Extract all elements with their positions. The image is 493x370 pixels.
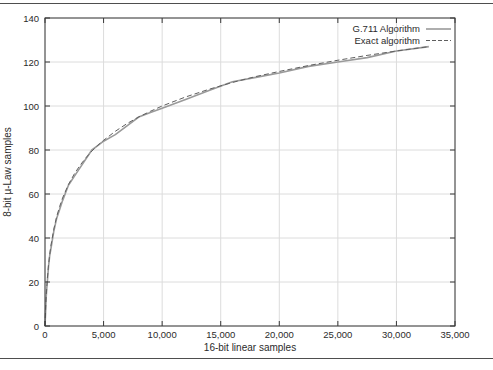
y-tick-label: 60 bbox=[28, 189, 39, 200]
y-axis-label: 8-bit µ-Law samples bbox=[2, 127, 13, 217]
x-tick-label: 5,000 bbox=[92, 329, 116, 340]
x-tick-label: 10,000 bbox=[148, 329, 177, 340]
y-tick-label: 20 bbox=[28, 277, 39, 288]
y-tick-label: 40 bbox=[28, 233, 39, 244]
plot-border bbox=[45, 18, 455, 326]
x-axis-label: 16-bit linear samples bbox=[204, 342, 296, 353]
y-tick-label: 120 bbox=[23, 57, 39, 68]
y-tick-label: 100 bbox=[23, 101, 39, 112]
y-tick-label: 0 bbox=[34, 321, 39, 332]
x-tick-label: 30,000 bbox=[382, 329, 411, 340]
x-tick-label: 0 bbox=[42, 329, 47, 340]
bottom-rule bbox=[0, 358, 493, 359]
legend-label-g711: G.711 Algorithm bbox=[353, 23, 421, 34]
series-line-exact bbox=[45, 47, 429, 326]
x-tick-label: 35,000 bbox=[440, 329, 469, 340]
legend-label-exact: Exact algorithm bbox=[355, 35, 421, 46]
mu-law-chart: 05,00010,00015,00020,00025,00030,00035,0… bbox=[0, 0, 493, 370]
top-rule bbox=[0, 3, 493, 4]
series-line-g711 bbox=[45, 47, 429, 326]
y-tick-label: 140 bbox=[23, 13, 39, 24]
figure: 05,00010,00015,00020,00025,00030,00035,0… bbox=[0, 0, 493, 370]
x-tick-label: 20,000 bbox=[265, 329, 294, 340]
x-tick-label: 15,000 bbox=[206, 329, 235, 340]
y-tick-label: 80 bbox=[28, 145, 39, 156]
x-tick-label: 25,000 bbox=[323, 329, 352, 340]
